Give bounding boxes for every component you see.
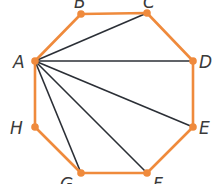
diagonal-AF [35,61,147,173]
vertex-G [77,169,85,177]
label-A: A [12,52,25,72]
label-C: C [143,0,155,12]
vertex-points [31,9,197,177]
label-D: D [199,52,212,72]
label-E: E [199,118,210,138]
label-G: G [60,174,73,184]
label-F: F [153,174,163,184]
vertex-A [31,57,39,65]
vertex-F [143,169,151,177]
octagon-outline [35,13,193,173]
vertex-H [31,123,39,131]
label-H: H [10,118,23,138]
vertex-E [189,123,197,131]
label-B: B [74,0,86,12]
vertex-D [189,57,197,65]
diagonal-AC [35,13,147,61]
octagon-diagram: ABCDEFGH [0,0,218,184]
octagon-edges [35,13,193,173]
